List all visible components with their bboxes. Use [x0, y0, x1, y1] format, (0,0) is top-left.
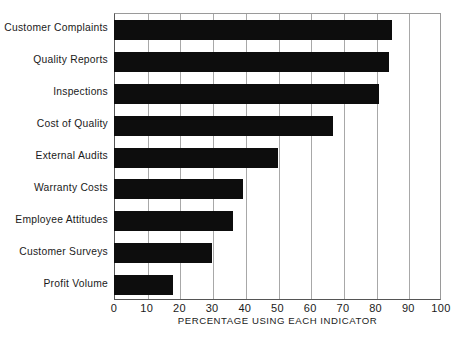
category-label: External Audits	[0, 150, 108, 161]
x-tick-label: 10	[140, 302, 153, 314]
category-label: Customer Complaints	[0, 22, 108, 33]
x-tick-label: 70	[336, 302, 349, 314]
bar-row	[114, 13, 441, 45]
bar	[114, 148, 278, 168]
bar-row	[114, 141, 441, 173]
bar	[114, 275, 173, 295]
x-tick-label: 40	[238, 302, 251, 314]
bar	[114, 52, 389, 72]
category-label: Customer Surveys	[0, 246, 108, 257]
category-axis-labels: Customer ComplaintsQuality ReportsInspec…	[0, 13, 108, 300]
x-tick-label: 0	[111, 302, 117, 314]
category-label: Profit Volume	[0, 278, 108, 289]
bar-row	[114, 45, 441, 77]
bar-row	[114, 268, 441, 300]
category-label: Employee Attitudes	[0, 214, 108, 225]
x-tick-label: 60	[304, 302, 317, 314]
category-label: Quality Reports	[0, 54, 108, 65]
x-axis-title: PERCENTAGE USING EACH INDICATOR	[114, 315, 441, 326]
bar-row	[114, 172, 441, 204]
category-label: Warranty Costs	[0, 182, 108, 193]
bar	[114, 84, 379, 104]
category-label: Inspections	[0, 86, 108, 97]
bar	[114, 243, 212, 263]
category-label: Cost of Quality	[0, 118, 108, 129]
x-tick-label: 80	[369, 302, 382, 314]
x-tick-label: 30	[206, 302, 219, 314]
bar-row	[114, 109, 441, 141]
x-tick-label: 50	[271, 302, 284, 314]
bar-row	[114, 77, 441, 109]
bar-row	[114, 236, 441, 268]
bar	[114, 20, 392, 40]
bar	[114, 211, 233, 231]
bar-chart-figure: Customer ComplaintsQuality ReportsInspec…	[0, 0, 468, 338]
bar-row	[114, 204, 441, 236]
bars-container	[114, 13, 441, 300]
x-tick-label: 100	[431, 302, 450, 314]
bar	[114, 116, 333, 136]
x-tick-label: 90	[402, 302, 415, 314]
bar	[114, 179, 243, 199]
x-tick-label: 20	[173, 302, 186, 314]
